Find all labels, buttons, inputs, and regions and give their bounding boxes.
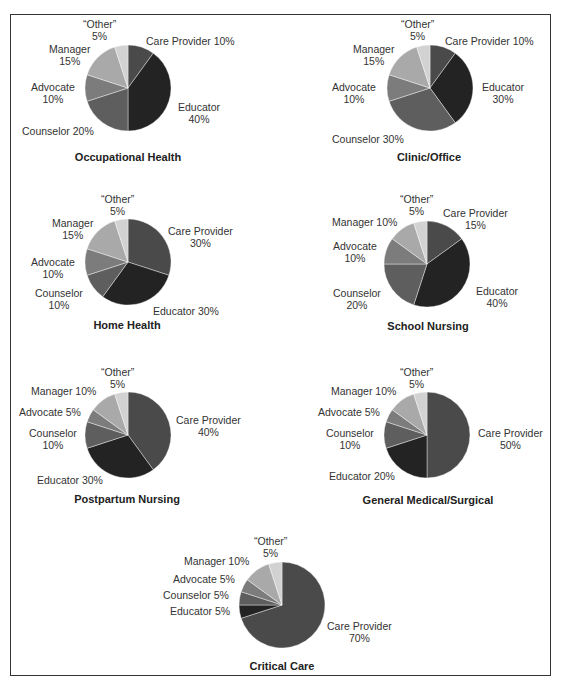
label-care-provider: Care Provider70% bbox=[327, 620, 392, 644]
label-advocate: Advocate 5% bbox=[173, 573, 235, 585]
pie-critical-care bbox=[0, 0, 564, 690]
label-other: “Other”5% bbox=[254, 535, 287, 559]
label-manager: Manager 10% bbox=[184, 555, 249, 567]
label-educator: Educator 5% bbox=[170, 605, 230, 617]
chart-title: Critical Care bbox=[250, 660, 315, 672]
label-counselor: Counselor 5% bbox=[163, 589, 229, 601]
